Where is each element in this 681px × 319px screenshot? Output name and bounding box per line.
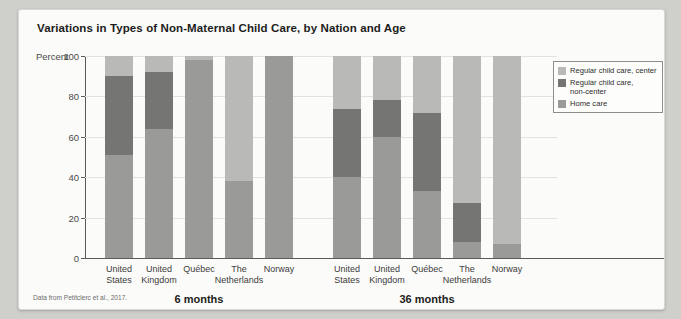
stacked-bar [265, 56, 293, 258]
segment-home-care [493, 244, 521, 258]
segment-regular-center [373, 56, 401, 100]
legend-label-line: non-center [570, 87, 633, 96]
segment-regular-noncenter [105, 76, 133, 155]
x-axis-tick-label-line: Netherlands [440, 275, 494, 286]
group-label-6-months: 6 months [119, 293, 279, 305]
group-label-36-months: 36 months [347, 293, 507, 305]
legend-label: Home care [570, 99, 607, 108]
segment-home-care [373, 137, 401, 258]
segment-regular-center [105, 56, 133, 76]
segment-regular-center [413, 56, 441, 113]
segment-home-care [453, 242, 481, 258]
stacked-bar [333, 56, 361, 258]
segment-regular-center [453, 56, 481, 203]
stacked-bar [145, 56, 173, 258]
legend-label: Regular child care, center [570, 66, 657, 75]
y-axis-tick [81, 56, 85, 57]
y-axis-tick-label: 100 [39, 51, 79, 62]
legend-label: Regular child care,non-center [570, 78, 633, 96]
segment-regular-center [185, 56, 213, 60]
segment-regular-noncenter [453, 203, 481, 241]
y-axis-tick-label: 60 [39, 131, 79, 142]
legend-swatch-icon [558, 100, 566, 108]
segment-regular-center [333, 56, 361, 109]
x-axis-tick-label-line: Netherlands [212, 275, 266, 286]
segment-home-care [185, 60, 213, 258]
y-axis-tick-label: 80 [39, 91, 79, 102]
segment-regular-center [145, 56, 173, 72]
y-axis-tick-label: 0 [39, 253, 79, 264]
legend-item: Regular child care, center [558, 66, 658, 75]
legend-swatch-icon [558, 67, 566, 75]
plot-area [85, 56, 557, 258]
segment-regular-center [225, 56, 253, 181]
stacked-bar [453, 56, 481, 258]
x-axis-tick-label-line: Kingdom [132, 275, 186, 286]
segment-home-care [333, 177, 361, 258]
y-axis-tick-label: 20 [39, 212, 79, 223]
x-axis-tick-label-line: Norway [252, 264, 306, 275]
segment-home-care [413, 191, 441, 258]
segment-home-care [105, 155, 133, 258]
x-axis-tick-label-line: Kingdom [360, 275, 414, 286]
y-axis-tick [81, 258, 85, 259]
segment-regular-center [493, 56, 521, 244]
stacked-bar [373, 56, 401, 258]
y-axis-tick [81, 96, 85, 97]
legend-swatch-icon [558, 79, 566, 87]
stacked-bar [225, 56, 253, 258]
segment-regular-noncenter [333, 109, 361, 178]
y-axis-tick [81, 218, 85, 219]
x-axis-tick-label-line: Norway [480, 264, 534, 275]
y-axis-tick-label: 40 [39, 172, 79, 183]
segment-home-care [265, 56, 293, 258]
legend: Regular child care, centerRegular child … [553, 61, 663, 113]
segment-regular-noncenter [413, 113, 441, 192]
figure-panel: Variations in Types of Non-Maternal Chil… [18, 9, 665, 310]
legend-item: Regular child care,non-center [558, 78, 658, 96]
x-axis-tick-label: Norway [252, 264, 306, 275]
segment-regular-noncenter [145, 72, 173, 129]
x-axis-tick-label: Norway [480, 264, 534, 275]
legend-label-line: Regular child care, [570, 78, 633, 87]
stacked-bar [493, 56, 521, 258]
stacked-bar [185, 56, 213, 258]
source-note: Data from Petitclerc et al., 2017. [33, 294, 127, 301]
page-title: Variations in Types of Non-Maternal Chil… [37, 22, 406, 34]
segment-home-care [225, 181, 253, 258]
y-axis-tick [81, 137, 85, 138]
stacked-bar [105, 56, 133, 258]
segment-home-care [145, 129, 173, 258]
stacked-bar [413, 56, 441, 258]
legend-item: Home care [558, 99, 658, 108]
y-axis-tick [81, 177, 85, 178]
x-axis-line [85, 258, 665, 259]
segment-regular-noncenter [373, 100, 401, 136]
